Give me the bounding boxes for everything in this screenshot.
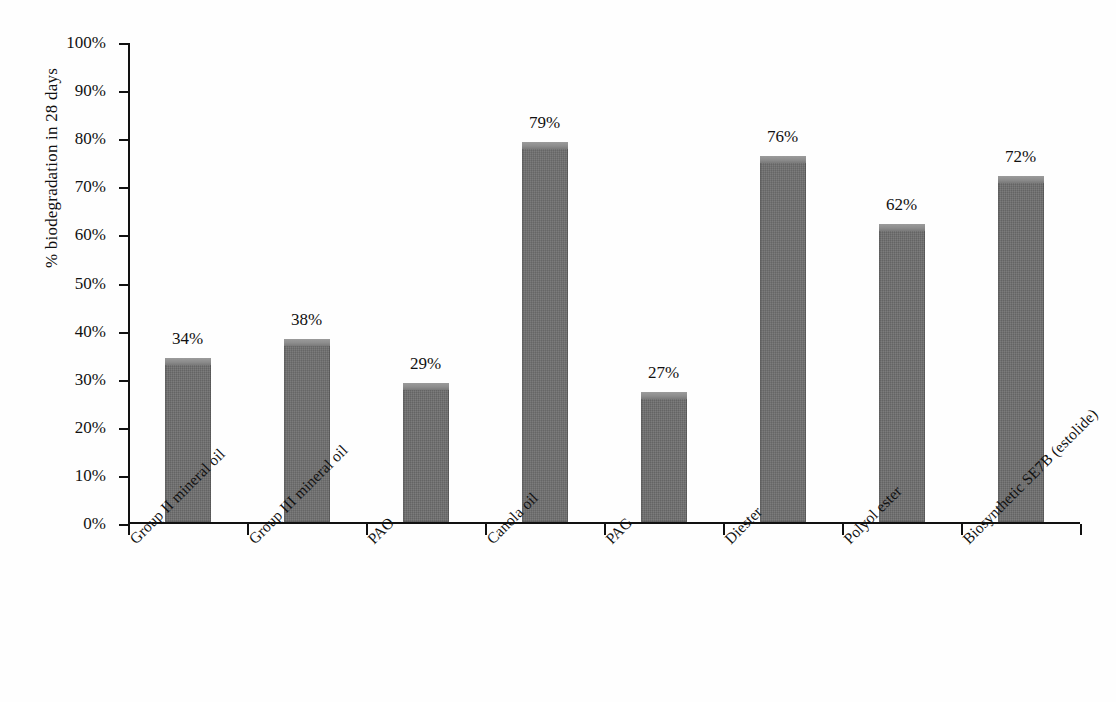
bar-top-highlight	[522, 142, 568, 149]
bar-value-label: 27%	[648, 363, 679, 383]
bar-top-highlight	[403, 383, 449, 390]
y-axis-tick-label: 30%	[75, 370, 106, 390]
bar-top-highlight	[879, 224, 925, 231]
bar-chart: % biodegradation in 28 days 0%10%20%30%4…	[0, 0, 1116, 702]
y-axis-tick-label: 40%	[75, 322, 106, 342]
bar-value-label: 79%	[529, 113, 560, 133]
y-axis-tick: 50%	[119, 284, 128, 286]
y-axis-tick-label: 10%	[75, 466, 106, 486]
y-axis-title: % biodegradation in 28 days	[42, 38, 62, 298]
y-axis-tick: 20%	[119, 428, 128, 430]
y-axis-tick-label: 100%	[66, 33, 106, 53]
bar-value-label: 62%	[886, 195, 917, 215]
bar-value-label: 38%	[291, 310, 322, 330]
plot-area: 0%10%20%30%40%50%60%70%80%90%100% 34%38%…	[128, 43, 1080, 524]
bar-top-highlight	[165, 358, 211, 365]
y-axis-line	[128, 43, 130, 525]
bar: 29%	[403, 383, 449, 522]
y-axis-tick: 60%	[119, 235, 128, 237]
bar: 79%	[522, 142, 568, 522]
y-axis-tick: 80%	[119, 139, 128, 141]
y-axis-tick-label: 20%	[75, 418, 106, 438]
bar: 62%	[879, 224, 925, 522]
bar-value-label: 72%	[1005, 147, 1036, 167]
bar-value-label: 34%	[172, 329, 203, 349]
y-axis-tick: 100%	[119, 43, 128, 45]
y-axis-tick-label: 0%	[83, 514, 106, 534]
y-axis-tick: 70%	[119, 187, 128, 189]
y-axis-tick-label: 90%	[75, 81, 106, 101]
y-axis-tick-label: 50%	[75, 274, 106, 294]
y-axis-tick: 30%	[119, 380, 128, 382]
y-axis-tick: 90%	[119, 91, 128, 93]
y-axis-tick: 0%	[119, 524, 128, 526]
bar-top-highlight	[641, 392, 687, 399]
y-axis-tick: 10%	[119, 476, 128, 478]
y-axis-tick: 40%	[119, 332, 128, 334]
bar: 76%	[760, 156, 806, 522]
bar-top-highlight	[998, 176, 1044, 183]
bar-top-highlight	[760, 156, 806, 163]
y-axis-tick-label: 60%	[75, 225, 106, 245]
bar-value-label: 76%	[767, 127, 798, 147]
y-axis-tick-label: 70%	[75, 177, 106, 197]
x-axis-tick	[1080, 524, 1082, 535]
bar-value-label: 29%	[410, 354, 441, 374]
bar: 27%	[641, 392, 687, 522]
bar-top-highlight	[284, 339, 330, 346]
y-axis-tick-label: 80%	[75, 129, 106, 149]
